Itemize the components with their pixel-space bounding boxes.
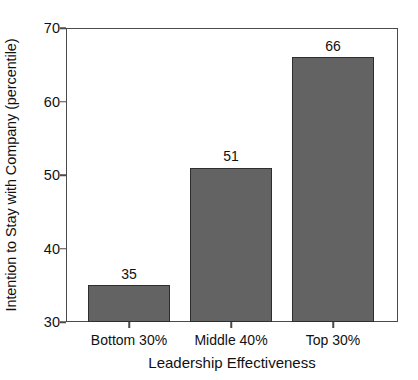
bar-value-top-30: 66 — [325, 38, 341, 54]
x-tick-mark-bottom-30 — [128, 322, 130, 328]
y-tick-label-30: 30 — [26, 314, 60, 330]
x-axis-title: Leadership Effectiveness — [66, 354, 398, 371]
x-category-label-top-30: Top 30% — [306, 332, 360, 348]
x-category-label-bottom-30: Bottom 30% — [91, 332, 167, 348]
y-tick-label-70: 70 — [26, 20, 60, 36]
y-axis-title: Intention to Stay with Company (percenti… — [0, 28, 22, 322]
bar-top-30[interactable] — [292, 57, 374, 322]
bar-bottom-30[interactable] — [88, 285, 170, 322]
x-category-label-middle-40: Middle 40% — [194, 332, 267, 348]
y-tick-label-50: 50 — [26, 167, 60, 183]
y-tick-label-60: 60 — [26, 94, 60, 110]
bar-value-bottom-30: 35 — [121, 266, 137, 282]
x-tick-mark-middle-40 — [230, 322, 232, 328]
bar-chart: Intention to Stay with Company (percenti… — [0, 0, 418, 380]
bar-middle-40[interactable] — [190, 168, 272, 322]
y-tick-label-40: 40 — [26, 241, 60, 257]
x-tick-mark-top-30 — [332, 322, 334, 328]
bar-value-middle-40: 51 — [223, 148, 239, 164]
